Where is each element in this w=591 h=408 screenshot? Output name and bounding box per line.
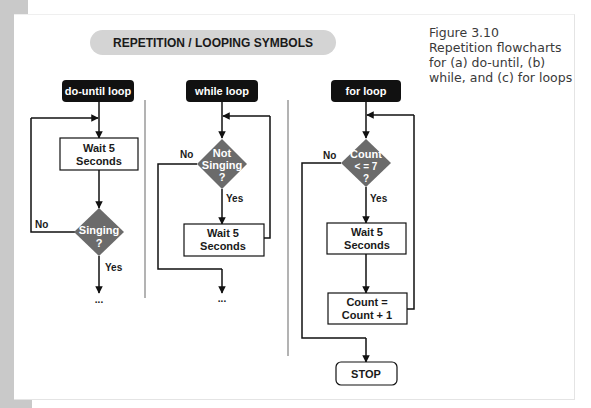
loop-back-line [264, 116, 270, 238]
loop-back-line [407, 115, 414, 309]
decision-text: < = 7 [355, 161, 378, 172]
process-text: Seconds [76, 155, 122, 167]
decision-text: Count [350, 148, 382, 160]
decision-text: ? [219, 171, 226, 183]
banner-title: REPETITION / LOOPING SYMBOLS [113, 36, 313, 50]
for-flowchart: for loop Count < = 7 ? No Yes Wait 5 Sec… [302, 80, 414, 385]
increment-text: Count + 1 [342, 309, 392, 321]
decision-text: Singing [202, 159, 242, 171]
no-label: No [180, 149, 193, 160]
process-text: Wait 5 [83, 142, 115, 154]
decision-text: Not [213, 147, 232, 159]
decision-text: ? [96, 237, 103, 249]
loop-back-line [31, 118, 75, 232]
do-until-label: do-until loop [65, 85, 132, 97]
continuation-ellipsis: ... [95, 294, 104, 305]
decision-text: Singing [79, 224, 119, 236]
yes-label: Yes [226, 193, 244, 204]
while-label: while loop [194, 85, 249, 97]
continuation-ellipsis: ... [218, 293, 227, 304]
yes-label: Yes [370, 193, 388, 204]
decision-text: ? [363, 173, 369, 184]
process-text: Seconds [344, 239, 390, 251]
process-text: Wait 5 [351, 226, 383, 238]
for-label: for loop [346, 85, 387, 97]
yes-label: Yes [105, 262, 123, 273]
increment-text: Count = [346, 296, 387, 308]
do-until-flowchart: do-until loop Wait 5 Seconds Singing ? N… [31, 80, 138, 305]
process-text: Wait 5 [207, 227, 239, 239]
process-text: Seconds [200, 240, 246, 252]
no-label: No [323, 150, 336, 161]
no-label: No [35, 219, 48, 230]
stop-text: STOP [351, 368, 381, 380]
flowchart-diagram: REPETITION / LOOPING SYMBOLS do-until lo… [0, 0, 591, 408]
while-flowchart: while loop Not Singing ? No Yes Wait 5 S… [158, 80, 270, 304]
